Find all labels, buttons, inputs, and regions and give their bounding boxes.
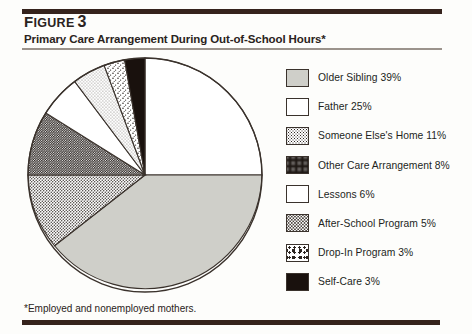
legend-swatch-other-care-arrangement-icon xyxy=(286,156,309,174)
legend-swatch-older-sibling-icon xyxy=(286,69,309,87)
pie-chart xyxy=(22,52,272,300)
legend-swatch-lessons-icon xyxy=(286,185,309,203)
legend-swatch-after-school-program-icon xyxy=(286,214,309,232)
legend-label-father: Father 25% xyxy=(318,101,372,112)
legend-label-after-school-program: After-School Program 5% xyxy=(318,218,436,229)
legend-item-someone-elses-home[interactable]: Someone Else's Home 11% xyxy=(286,124,470,147)
legend-label-lessons: Lessons 6% xyxy=(318,189,375,200)
pie-slice-father xyxy=(145,58,262,175)
legend-item-after-school-program[interactable]: After-School Program 5% xyxy=(286,212,470,235)
figure-footnote: *Employed and nonemployed mothers. xyxy=(24,303,196,314)
legend-swatch-drop-in-program-icon xyxy=(286,244,309,262)
legend-label-other-care-arrangement: Other Care Arrangement 8% xyxy=(318,160,450,171)
pie-chart-svg xyxy=(22,52,272,300)
pie-slices xyxy=(28,58,262,292)
legend-item-self-care[interactable]: Self-Care 3% xyxy=(286,270,470,293)
legend-label-self-care: Self-Care 3% xyxy=(318,276,380,287)
figure-label-rest: IGURE xyxy=(33,16,74,30)
figure-number: 3 xyxy=(78,13,87,30)
figure-label: FIGURE3 xyxy=(24,13,87,31)
legend: Older Sibling 39% Father 25% Someone Els… xyxy=(286,66,470,300)
legend-item-lessons[interactable]: Lessons 6% xyxy=(286,183,470,206)
footer-rule xyxy=(22,320,440,325)
legend-swatch-self-care-icon xyxy=(286,273,309,291)
figure-card: FIGURE3 Primary Care Arrangement During … xyxy=(0,0,472,334)
legend-label-drop-in-program: Drop-In Program 3% xyxy=(318,247,413,258)
legend-label-older-sibling: Older Sibling 39% xyxy=(318,72,401,83)
legend-swatch-father-icon xyxy=(286,98,309,116)
legend-item-other-care-arrangement[interactable]: Other Care Arrangement 8% xyxy=(286,154,470,177)
header-rule-bottom xyxy=(22,48,442,50)
legend-item-drop-in-program[interactable]: Drop-In Program 3% xyxy=(286,241,470,264)
legend-label-someone-elses-home: Someone Else's Home 11% xyxy=(318,130,446,141)
legend-item-older-sibling[interactable]: Older Sibling 39% xyxy=(286,66,470,89)
legend-item-father[interactable]: Father 25% xyxy=(286,95,470,118)
figure-title: Primary Care Arrangement During Out-of-S… xyxy=(24,33,326,45)
legend-swatch-someone-elses-home-icon xyxy=(286,127,309,145)
